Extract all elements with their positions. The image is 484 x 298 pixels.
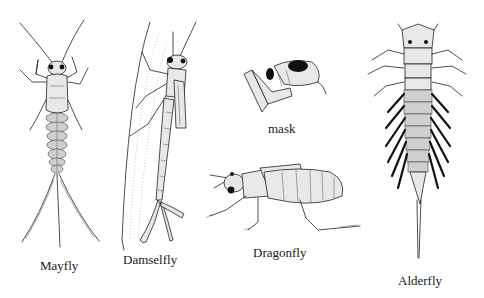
label-damselfly: Damselfly (123, 252, 177, 268)
mask-drawing (244, 60, 326, 112)
label-mayfly: Mayfly (40, 258, 78, 274)
label-mask: mask (268, 121, 295, 137)
label-alderfly: Alderfly (398, 273, 442, 289)
damselfly-drawing (122, 22, 196, 250)
dragonfly-drawing (206, 164, 360, 230)
illustration-canvas: Mayfly Damselfly mask Dragonfly Alderfly (0, 0, 484, 298)
alderfly-drawing (368, 24, 466, 258)
mayfly-drawing (20, 20, 99, 247)
specimen-drawings (0, 0, 484, 298)
label-dragonfly: Dragonfly (253, 245, 306, 261)
